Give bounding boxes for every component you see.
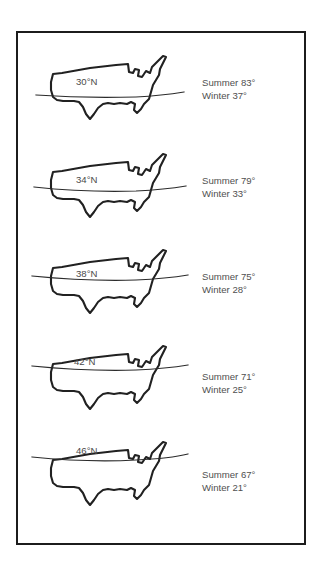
summer-temperature: Summer 83°: [202, 77, 302, 90]
winter-temperature: Winter 28°: [202, 284, 302, 297]
latitude-panel: 34°N Summer 79° Winter 33°: [18, 145, 304, 240]
latitude-panel: 30°N Summer 83° Winter 37°: [18, 47, 304, 142]
temperature-readout: Summer 71° Winter 25°: [202, 371, 302, 396]
latitude-label: 38°N: [76, 268, 98, 279]
latitude-panel: 42°N Summer 71° Winter 25°: [18, 337, 304, 432]
latitude-label: 34°N: [76, 174, 98, 185]
us-map-with-latitude-line: 34°N: [32, 145, 200, 240]
latitude-label: 42°N: [74, 356, 96, 367]
summer-temperature: Summer 79°: [202, 175, 302, 188]
summer-temperature: Summer 71°: [202, 371, 302, 384]
figure-frame: 30°N Summer 83° Winter 37° 34°N Summer 7…: [16, 31, 306, 545]
us-map-with-latitude-line: 42°N: [32, 337, 200, 432]
us-map-with-latitude-line: 46°N: [32, 433, 200, 528]
latitude-label: 30°N: [76, 76, 98, 87]
temperature-readout: Summer 83° Winter 37°: [202, 77, 302, 102]
winter-temperature: Winter 25°: [202, 384, 302, 397]
latitude-label: 46°N: [76, 445, 98, 456]
temperature-readout: Summer 67° Winter 21°: [202, 469, 302, 494]
winter-temperature: Winter 37°: [202, 90, 302, 103]
latitude-panel: 46°N Summer 67° Winter 21°: [18, 433, 304, 528]
summer-temperature: Summer 75°: [202, 271, 302, 284]
winter-temperature: Winter 33°: [202, 188, 302, 201]
summer-temperature: Summer 67°: [202, 469, 302, 482]
winter-temperature: Winter 21°: [202, 482, 302, 495]
latitude-panel: 38°N Summer 75° Winter 28°: [18, 241, 304, 336]
temperature-readout: Summer 75° Winter 28°: [202, 271, 302, 296]
temperature-readout: Summer 79° Winter 33°: [202, 175, 302, 200]
us-map-with-latitude-line: 38°N: [32, 241, 200, 336]
us-map-with-latitude-line: 30°N: [32, 47, 200, 142]
